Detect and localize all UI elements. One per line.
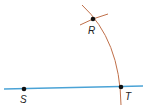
point-t (119, 85, 124, 90)
label-r: R (88, 25, 95, 36)
point-r (91, 17, 96, 22)
label-s: S (20, 94, 27, 105)
main-arc (82, 5, 121, 105)
label-t: T (125, 91, 132, 102)
point-s (22, 87, 27, 92)
construction-diagram: R S T (0, 0, 143, 110)
